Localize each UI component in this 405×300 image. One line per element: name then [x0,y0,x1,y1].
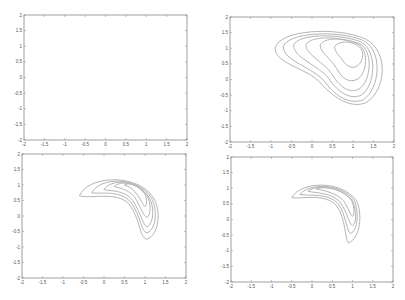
axes-top-right: -2-1.5-1-0.500.511.5221.510.50-0.5-1-1.5… [220,15,396,150]
y-tick-label: 0.5 [222,61,229,66]
y-tick-label: 2 [17,152,20,157]
x-tick-label: 1.5 [162,280,169,285]
x-tick-label: 1.5 [370,144,377,149]
x-tick-label: 0.5 [329,284,336,289]
x-tick-label: 2 [186,142,189,147]
x-tick-label: 1 [144,280,147,285]
x-tick-label: 2 [392,284,395,289]
x-tick-label: -2 [228,144,232,149]
axes-top-left: -2-1.5-1-0.500.511.5221.510.50-0.5-1-1.5… [14,13,189,148]
x-tick-label: -0.5 [80,280,88,285]
y-tick-label: -1.5 [221,264,229,269]
y-tick-label: -1 [224,108,228,113]
y-tick-label: 0.5 [14,198,21,203]
y-tick-label: 0 [17,214,20,219]
x-tick-label: 1.5 [163,142,170,147]
y-tick-label: 2 [225,15,228,20]
x-tick-label: 0.5 [329,144,336,149]
x-tick-label: 1 [145,142,148,147]
x-tick-label: 0 [311,284,314,289]
y-tick-label: 1 [226,186,229,191]
x-tick-label: -1.5 [39,280,47,285]
y-tick-label: 1.5 [222,30,229,35]
y-tick-label: -2 [16,276,20,281]
x-tick-label: 0.5 [123,142,130,147]
x-tick-label: -1 [61,280,65,285]
y-tick-label: 1.5 [223,170,230,175]
y-tick-label: 0 [226,217,229,222]
y-tick-label: -0.5 [14,91,22,96]
y-tick-label: -2 [225,280,229,285]
y-tick-label: 1 [19,44,22,49]
axes-bottom-right: -2-1.5-1-0.500.511.5221.510.50-0.5-1-1.5… [221,155,395,290]
x-tick-label: -2 [20,280,24,285]
x-tick-label: -0.5 [288,144,296,149]
x-tick-label: 2 [185,280,188,285]
y-tick-label: 1 [17,183,20,188]
x-tick-label: -1 [269,144,273,149]
x-tick-label: -1 [63,142,67,147]
x-tick-label: 0 [311,144,314,149]
x-tick-label: 0 [104,142,107,147]
y-tick-label: -1.5 [12,260,20,265]
x-tick-label: 1.5 [370,284,377,289]
y-tick-label: 1.5 [14,167,21,172]
x-tick-label: -1.5 [40,142,48,147]
x-tick-label: -1.5 [247,284,255,289]
y-tick-label: -2 [224,140,228,145]
x-tick-label: 0 [103,280,106,285]
y-tick-label: 0 [19,75,22,80]
x-tick-label: 2 [393,144,396,149]
axes-svg: -2-1.5-1-0.500.511.5221.510.50-0.5-1-1.5… [0,0,405,300]
y-tick-label: -1.5 [14,122,22,127]
y-tick-label: -0.5 [221,233,229,238]
x-tick-label: 0.5 [121,280,128,285]
y-tick-label: 2 [226,155,229,160]
y-tick-label: 1 [225,46,228,51]
y-tick-label: -0.5 [12,229,20,234]
axes-bottom-left: -2-1.5-1-0.500.511.5221.510.50-0.5-1-1.5… [12,152,188,286]
y-tick-label: 0 [225,77,228,82]
y-tick-label: 2 [19,13,22,18]
y-tick-label: -2 [18,138,22,143]
x-tick-label: -2 [229,284,233,289]
x-tick-label: -1 [269,284,273,289]
x-tick-label: 1 [351,284,354,289]
y-tick-label: -1 [16,245,20,250]
y-tick-label: -1.5 [220,124,228,129]
y-tick-label: -0.5 [220,93,228,98]
x-tick-label: -1.5 [247,144,255,149]
y-tick-label: -1 [225,248,229,253]
y-tick-label: 0.5 [223,201,230,206]
x-tick-label: -0.5 [288,284,296,289]
x-tick-label: 1 [352,144,355,149]
x-tick-label: -2 [22,142,26,147]
x-tick-label: -0.5 [81,142,89,147]
y-tick-label: 1.5 [16,28,23,33]
y-tick-label: -1 [18,106,22,111]
y-tick-label: 0.5 [16,59,23,64]
